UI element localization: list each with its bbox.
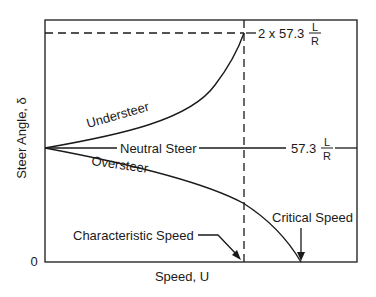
upper-fraction-denominator: R — [311, 35, 319, 47]
characteristic-speed-leader — [198, 235, 238, 256]
neutral-fraction-numerator: L — [324, 136, 330, 148]
characteristic-speed-label: Characteristic Speed — [73, 228, 194, 243]
neutral-steer-label: Neutral Steer — [120, 141, 197, 156]
oversteer-curve — [45, 148, 301, 262]
x-axis-origin-label: 0 — [30, 254, 37, 269]
upper-level-prefix: 2 x 57.3 — [258, 26, 304, 41]
neutral-level-prefix: 57.3 — [291, 141, 316, 156]
neutral-fraction-denominator: R — [323, 150, 331, 162]
understeer-label: Understeer — [85, 99, 152, 131]
understeer-curve — [45, 33, 244, 148]
steer-angle-diagram: 2 x 57.3 L R 57.3 L R Neutral Steer Unde… — [0, 0, 376, 297]
x-axis-label: Speed, U — [155, 269, 209, 284]
y-axis-label: Steer Angle, δ — [14, 97, 29, 179]
upper-fraction-numerator: L — [312, 21, 318, 33]
oversteer-label: Oversteer — [91, 153, 150, 176]
critical-speed-label: Critical Speed — [272, 210, 353, 225]
